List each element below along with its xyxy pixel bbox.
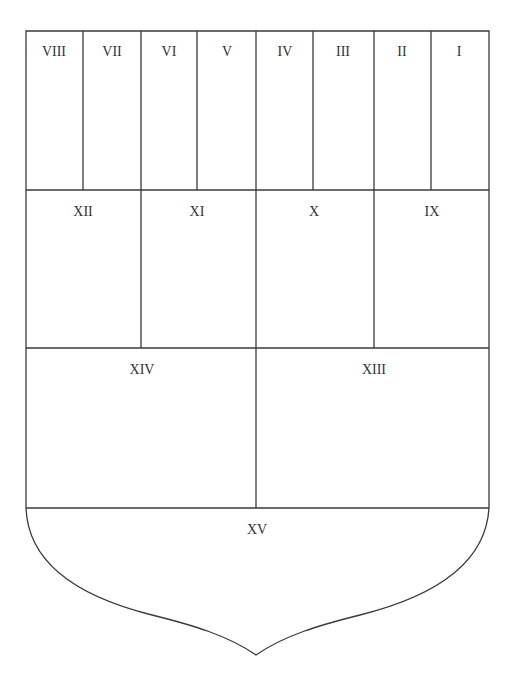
cell-label-xiv: XIV [130, 362, 155, 377]
cell-label-viii: VIII [42, 44, 66, 59]
shield-outline [26, 31, 489, 655]
cell-label-xii: XII [73, 204, 93, 219]
cell-label-xv: XV [247, 522, 267, 537]
cell-label-ii: II [397, 44, 407, 59]
cell-label-i: I [457, 44, 462, 59]
cell-label-vii: VII [102, 44, 122, 59]
cell-label-xi: XI [190, 204, 205, 219]
cell-label-iii: III [336, 44, 350, 59]
shield-diagram: VIII VII VI V IV III II I XII XI X IX XI… [0, 0, 512, 680]
cell-label-ix: IX [425, 204, 440, 219]
cell-label-xiii: XIII [362, 362, 386, 377]
cell-label-iv: IV [278, 44, 293, 59]
cell-label-x: X [309, 204, 319, 219]
cell-label-vi: VI [162, 44, 177, 59]
cell-label-v: V [222, 44, 232, 59]
